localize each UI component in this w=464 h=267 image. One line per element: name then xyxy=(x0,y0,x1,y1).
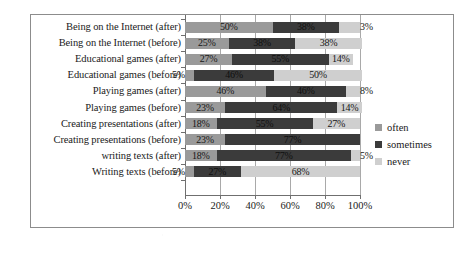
bar-segment-often: 5% xyxy=(185,70,194,81)
bar-segment-sometimes: 38% xyxy=(273,22,340,33)
x-tick-label: 0% xyxy=(178,200,192,212)
x-tick xyxy=(290,195,291,199)
bar-segment-sometimes: 27% xyxy=(194,166,241,177)
x-tick-label: 100% xyxy=(348,200,373,212)
bar-row: Being on the Internet (before)25%38%38% xyxy=(31,35,367,51)
bar-segment-sometimes: 55% xyxy=(217,118,313,129)
value-label: 8% xyxy=(360,86,382,96)
bar-rows: Being on the Internet (after)50%38%3%Bei… xyxy=(31,19,367,180)
legend-label: never xyxy=(387,156,410,168)
category-label: Playing games (after) xyxy=(31,85,185,97)
bar-segment-sometimes: 55% xyxy=(232,54,328,65)
category-label: Educational games (before) xyxy=(31,69,185,81)
value-label: 77% xyxy=(217,151,352,161)
value-label: 23% xyxy=(185,135,225,145)
category-label: Being on the Internet (before) xyxy=(31,37,185,49)
stacked-bar: 18%55%27% xyxy=(185,118,360,129)
bar-segment-sometimes: 46% xyxy=(194,70,275,81)
value-label: 25% xyxy=(185,38,229,48)
x-axis-line xyxy=(185,195,360,196)
bar-segment-never: 8% xyxy=(346,86,360,97)
category-label: Educational games (after) xyxy=(31,53,185,65)
value-label: 14% xyxy=(337,103,362,113)
value-label: 50% xyxy=(185,22,273,32)
x-tick xyxy=(325,195,326,199)
legend-item-sometimes[interactable]: sometimes xyxy=(375,136,453,153)
bar-row: Playing games (after)46%46%8% xyxy=(31,83,367,99)
bar-segment-often: 50% xyxy=(185,22,273,33)
bar-segment-often: 27% xyxy=(185,54,232,65)
value-label: 46% xyxy=(185,86,266,96)
category-label: Creating presentations (before) xyxy=(31,134,185,146)
value-label: 14% xyxy=(329,54,354,64)
bar-segment-never: 14% xyxy=(329,54,354,65)
bar-row: writing texts (after)18%77%5% xyxy=(31,148,367,164)
bar-segment-never: 14% xyxy=(337,102,362,113)
legend-item-never[interactable]: never xyxy=(375,153,453,170)
x-tick xyxy=(220,195,221,199)
chart-frame: Being on the Internet (after)50%38%3%Bei… xyxy=(30,14,454,228)
value-label: 5% xyxy=(165,70,185,80)
bar-segment-never: 68% xyxy=(241,166,360,177)
x-tick xyxy=(185,195,186,199)
stacked-bar: 18%77%5% xyxy=(185,150,360,161)
value-label: 27% xyxy=(313,119,360,129)
bar-row: Playing games (before)23%64%14% xyxy=(31,99,367,115)
stacked-bar: 46%46%8% xyxy=(185,86,360,97)
stacked-bar: 23%77% xyxy=(185,134,360,145)
x-tick-label: 40% xyxy=(245,200,264,212)
bar-row: Being on the Internet (after)50%38%3% xyxy=(31,19,367,35)
x-tick-label: 60% xyxy=(280,200,299,212)
value-label: 55% xyxy=(217,119,313,129)
bar-segment-often: 23% xyxy=(185,134,225,145)
bar-segment-often: 5% xyxy=(185,166,194,177)
value-label: 64% xyxy=(225,103,337,113)
y-tick xyxy=(181,180,185,181)
bar-segment-sometimes: 38% xyxy=(229,38,296,49)
x-tick xyxy=(255,195,256,199)
value-label: 38% xyxy=(229,38,296,48)
value-label: 77% xyxy=(225,135,360,145)
value-label: 55% xyxy=(232,54,328,64)
legend-swatch-sometimes xyxy=(375,141,382,148)
stacked-bar: 5%46%50% xyxy=(185,70,360,81)
bar-segment-never: 5% xyxy=(351,150,360,161)
value-label: 3% xyxy=(360,22,382,32)
stacked-bar: 5%27%68% xyxy=(185,166,360,177)
bar-segment-often: 23% xyxy=(185,102,225,113)
bar-segment-sometimes: 77% xyxy=(225,134,360,145)
x-tick-label: 20% xyxy=(210,200,229,212)
value-label: 68% xyxy=(241,167,360,177)
bar-segment-never: 38% xyxy=(295,38,362,49)
legend-swatch-never xyxy=(375,158,382,165)
value-label: 18% xyxy=(185,119,217,129)
bar-segment-sometimes: 77% xyxy=(217,150,352,161)
bar-row: Writing texts (before)5%27%68% xyxy=(31,164,367,180)
bar-row: Educational games (after)27%55%14% xyxy=(31,51,367,67)
bar-segment-often: 25% xyxy=(185,38,229,49)
stacked-bar: 25%38%38% xyxy=(185,38,360,49)
x-tick xyxy=(360,195,361,199)
stacked-bar: 50%38%3% xyxy=(185,22,360,33)
legend-swatch-often xyxy=(375,124,382,131)
legend-label: often xyxy=(387,122,409,134)
legend-item-often[interactable]: often xyxy=(375,119,453,136)
value-label: 50% xyxy=(274,70,362,80)
value-label: 38% xyxy=(295,38,362,48)
bar-row: Creating presentations (before)23%77% xyxy=(31,132,367,148)
legend-label: sometimes xyxy=(387,139,432,151)
category-label: Writing texts (before) xyxy=(31,166,185,178)
chart-legend: oftensometimesnever xyxy=(375,119,453,170)
value-label: 38% xyxy=(273,22,340,32)
value-label: 23% xyxy=(185,103,225,113)
category-label: Playing games (before) xyxy=(31,102,185,114)
category-label: writing texts (after) xyxy=(31,150,185,162)
bar-row: Creating presentations (after)18%55%27% xyxy=(31,116,367,132)
value-label: 18% xyxy=(185,151,217,161)
plot-area: Being on the Internet (after)50%38%3%Bei… xyxy=(31,15,367,227)
value-label: 27% xyxy=(185,54,232,64)
bar-segment-often: 46% xyxy=(185,86,266,97)
bar-segment-never: 3% xyxy=(339,22,360,33)
bar-segment-often: 18% xyxy=(185,118,217,129)
bar-segment-often: 18% xyxy=(185,150,217,161)
